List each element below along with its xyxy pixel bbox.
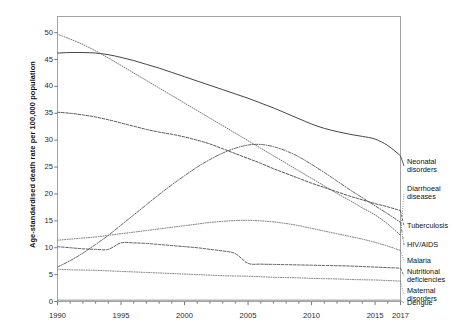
legend-label-6: Nutritionaldeficiencies [407,268,445,285]
legend-leader-line [401,268,405,276]
legend-label-line1: Dengue [407,299,433,307]
legend-label-3: Tuberculosis [407,222,448,230]
legend-label-2: Diarrhoealdiseases [407,185,441,202]
series-line [58,112,401,210]
series-line [58,269,401,281]
series-line [58,52,401,155]
legend-leader-line [401,300,405,303]
legend-label-line1: Tuberculosis [407,222,448,230]
legend-leader-line [401,223,405,246]
legend-leader-line [401,156,405,166]
legend-label-line1: Malaria [407,257,431,265]
legend-label-1: Neonataldisorders [407,158,437,175]
legend-leader-line [401,250,405,261]
series-line [58,34,401,235]
line-chart-plot [0,0,465,334]
legend-label-line2: disorders [407,166,437,174]
chart-figure: Age-standardised death rate per 100,000 … [0,0,465,334]
series-line [58,242,401,268]
legend-leader-line [401,193,405,235]
legend-label-5: Malaria [407,257,431,265]
legend-label-line2: deficiencies [407,276,445,284]
series-line [58,220,401,250]
legend-label-4: HIV/AIDS [407,241,438,249]
legend-label-line2: diseases [407,193,441,201]
legend-leader-line [401,281,405,295]
legend-label-line1: HIV/AIDS [407,241,438,249]
legend-label-8: Dengue [407,299,433,307]
